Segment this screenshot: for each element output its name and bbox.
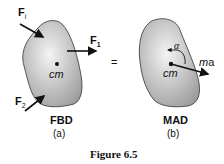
cm-label-a: cm: [49, 68, 64, 80]
force-f2-label: F2: [15, 95, 26, 109]
alpha-label: α: [174, 40, 179, 51]
cm-label-b: cm: [163, 67, 178, 79]
force-fi-label: Fi: [18, 6, 26, 20]
figure-canvas: [0, 0, 224, 164]
mad-title: MAD: [163, 114, 188, 126]
cm-point-a: [55, 62, 59, 66]
ma-label: ma: [199, 56, 214, 68]
equals-sign: =: [111, 56, 117, 68]
panel-a-sublabel: (a): [53, 128, 65, 139]
rigid-body-a: [23, 21, 82, 107]
fbd-title: FBD: [50, 114, 73, 126]
panel-b-sublabel: (b): [167, 128, 179, 139]
figure-caption: Figure 6.5: [90, 148, 137, 160]
force-f1-label: F1: [90, 34, 101, 48]
